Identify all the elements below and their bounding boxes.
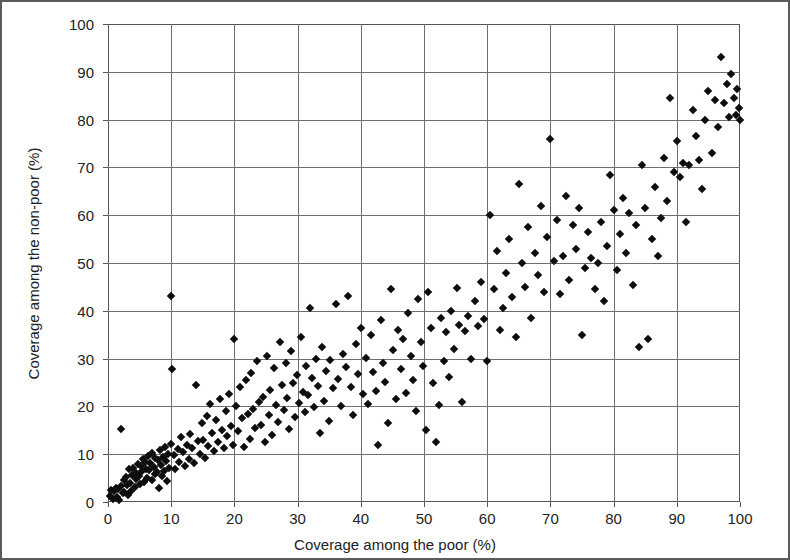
data-point [266, 385, 274, 393]
data-point [534, 271, 542, 279]
data-point [234, 427, 242, 435]
data-point [208, 428, 216, 436]
data-point [272, 401, 280, 409]
data-point [334, 374, 342, 382]
data-point [641, 204, 649, 212]
scatter-points [108, 24, 740, 502]
data-point [302, 362, 310, 370]
data-point [260, 438, 268, 446]
data-point [540, 287, 548, 295]
data-point [404, 309, 412, 317]
data-point [210, 447, 218, 455]
data-point [530, 249, 538, 257]
data-point [279, 406, 287, 414]
data-point [396, 365, 404, 373]
data-point [339, 350, 347, 358]
data-point [315, 428, 323, 436]
data-point [379, 359, 387, 367]
data-point [600, 297, 608, 305]
data-point [304, 391, 312, 399]
data-point [695, 156, 703, 164]
data-point [521, 283, 529, 291]
data-point [154, 483, 162, 491]
data-point [322, 366, 330, 374]
data-point [562, 192, 570, 200]
data-point [473, 322, 481, 330]
data-point [168, 365, 176, 373]
data-point [293, 371, 301, 379]
x-tick-label: 30 [289, 510, 306, 527]
data-point [663, 197, 671, 205]
data-point [546, 134, 554, 142]
data-point [291, 413, 299, 421]
data-point [729, 94, 737, 102]
data-point [518, 259, 526, 267]
y-tick-label: 20 [77, 398, 94, 415]
data-point [192, 381, 200, 389]
data-point [324, 416, 332, 424]
x-tick-label: 60 [479, 510, 496, 527]
data-point [527, 314, 535, 322]
data-point [537, 201, 545, 209]
data-point [417, 338, 425, 346]
data-point [676, 173, 684, 181]
data-point [654, 252, 662, 260]
data-point [496, 326, 504, 334]
x-tick-mark [424, 502, 425, 507]
data-point [657, 213, 665, 221]
data-point [733, 84, 741, 92]
data-point [394, 326, 402, 334]
data-point [232, 402, 240, 410]
data-point [287, 347, 295, 355]
x-tick-label: 70 [542, 510, 559, 527]
data-point [492, 247, 500, 255]
data-point [364, 400, 372, 408]
data-point [409, 376, 417, 384]
data-point [212, 416, 220, 424]
data-point [453, 284, 461, 292]
y-tick-label: 70 [77, 159, 94, 176]
data-point [374, 440, 382, 448]
data-point [384, 419, 392, 427]
data-point [247, 369, 255, 377]
data-point [543, 232, 551, 240]
data-point [216, 395, 224, 403]
data-point [552, 216, 560, 224]
data-point [682, 218, 690, 226]
data-point [414, 295, 422, 303]
data-point [575, 204, 583, 212]
data-point [594, 259, 602, 267]
x-tick-label: 10 [163, 510, 180, 527]
data-point [300, 408, 308, 416]
data-point [480, 315, 488, 323]
data-point [188, 444, 196, 452]
data-point [499, 304, 507, 312]
data-point [186, 430, 194, 438]
data-point [424, 287, 432, 295]
data-point [223, 432, 231, 440]
data-point [467, 354, 475, 362]
data-point [253, 357, 261, 365]
data-point [412, 407, 420, 415]
data-point [450, 345, 458, 353]
data-point [354, 370, 362, 378]
data-point [295, 398, 303, 406]
data-point [278, 381, 286, 389]
data-point [262, 352, 270, 360]
data-point [727, 70, 735, 78]
data-point [163, 477, 171, 485]
y-tick-label: 10 [77, 446, 94, 463]
data-point [432, 438, 440, 446]
data-point [314, 382, 322, 390]
data-point [359, 390, 367, 398]
data-point [590, 285, 598, 293]
data-point [391, 395, 399, 403]
data-point [502, 268, 510, 276]
data-point [319, 396, 327, 404]
data-point [511, 333, 519, 341]
data-point [202, 412, 210, 420]
y-tick-mark [103, 502, 108, 503]
data-point [336, 402, 344, 410]
data-point [720, 99, 728, 107]
data-point [666, 94, 674, 102]
